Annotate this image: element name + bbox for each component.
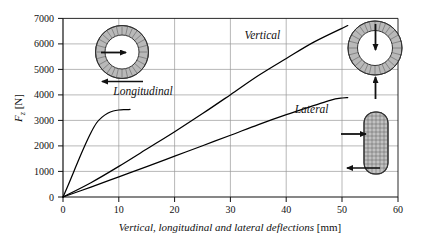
chart-canvas: 0 1000 2000 3000 4000 5000 6000 7000 0 1… xyxy=(0,0,423,243)
x-tick-label: 10 xyxy=(114,204,124,215)
x-tick-label: 30 xyxy=(225,204,235,215)
y-tick-label: 3000 xyxy=(34,115,54,126)
y-axis-ticks xyxy=(58,18,63,197)
curve-longitudinal xyxy=(63,109,130,197)
y-axis-tick-labels: 0 1000 2000 3000 4000 5000 6000 7000 xyxy=(34,13,54,203)
y-axis-title: Fz [N] xyxy=(12,94,27,123)
y-tick-label: 6000 xyxy=(34,38,54,49)
x-axis-title-unit: [mm] xyxy=(317,221,341,233)
y-tick-label: 1000 xyxy=(34,166,54,177)
y-tick-label: 7000 xyxy=(34,13,54,24)
x-axis-tick-labels: 0 10 20 30 40 50 60 xyxy=(61,204,404,215)
curve-label-lateral: Lateral xyxy=(294,103,329,115)
tire-lateral-diagram xyxy=(341,112,388,174)
x-tick-label: 0 xyxy=(61,204,66,215)
y-tick-label: 4000 xyxy=(34,89,54,100)
x-axis-ticks xyxy=(63,197,398,202)
y-tick-label: 0 xyxy=(49,192,54,203)
y-axis-title-unit: [N] xyxy=(12,94,24,109)
tire-vertical-diagram xyxy=(348,15,402,99)
x-tick-label: 40 xyxy=(281,204,291,215)
figure-tire-stiffness-chart: 0 1000 2000 3000 4000 5000 6000 7000 0 1… xyxy=(0,0,423,243)
x-tick-label: 60 xyxy=(393,204,403,215)
y-tick-label: 5000 xyxy=(34,64,54,75)
curve-label-vertical: Vertical xyxy=(245,29,281,41)
curve-label-longitudinal: Longitudinal xyxy=(112,85,172,98)
tire-longitudinal-diagram xyxy=(96,20,149,85)
x-tick-label: 20 xyxy=(170,204,180,215)
x-axis-title: Vertical, longitudinal and lateral defle… xyxy=(119,221,341,233)
x-axis-title-text: Vertical, longitudinal and lateral defle… xyxy=(119,221,314,233)
svg-text:Fz [N]: Fz [N] xyxy=(12,94,27,123)
y-tick-label: 2000 xyxy=(34,140,54,151)
x-tick-label: 50 xyxy=(337,204,347,215)
